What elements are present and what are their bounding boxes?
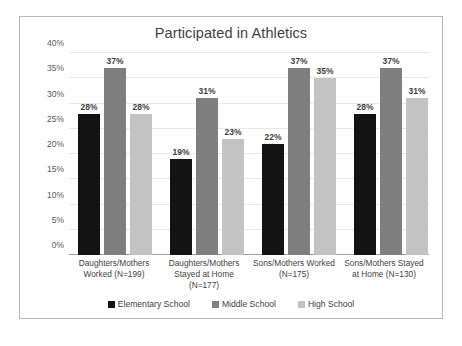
bar-value-label: 35% <box>316 66 333 76</box>
bar-value-label: 37% <box>290 56 307 66</box>
bar-slot: 28% <box>130 53 152 255</box>
bar-value-label: 37% <box>106 56 123 66</box>
bar-groups: 28%37%28%19%31%23%22%37%35%28%37%31% <box>69 53 429 255</box>
bar[interactable]: 23% <box>222 139 244 255</box>
x-axis-category-labels: Daughters/Mothers Worked (N=199)Daughter… <box>69 258 429 291</box>
bar-group: 22%37%35% <box>253 53 345 255</box>
bar[interactable]: 37% <box>104 68 126 255</box>
legend-label: Middle School <box>222 299 276 309</box>
bar-group: 28%37%31% <box>345 53 437 255</box>
bar[interactable]: 31% <box>406 98 428 255</box>
bar[interactable]: 37% <box>380 68 402 255</box>
bar-value-label: 19% <box>172 147 189 157</box>
y-axis-tick-label: 0% <box>52 240 64 250</box>
bar-value-label: 31% <box>408 86 425 96</box>
bar[interactable]: 37% <box>288 68 310 255</box>
legend-swatch-icon <box>108 301 115 308</box>
y-axis-tick-label: 5% <box>52 215 64 225</box>
bar-group: 28%37%28% <box>69 53 161 255</box>
bar-slot: 35% <box>314 53 336 255</box>
bar[interactable]: 28% <box>130 114 152 255</box>
bar[interactable]: 28% <box>78 114 100 255</box>
bar-slot: 37% <box>380 53 402 255</box>
bar-value-label: 31% <box>198 86 215 96</box>
bar[interactable]: 35% <box>314 78 336 255</box>
y-axis-tick-label: 15% <box>47 164 64 174</box>
bar-value-label: 37% <box>382 56 399 66</box>
legend-item[interactable]: Middle School <box>212 299 276 309</box>
category-label: Daughters/Mothers Stayed at Home (N=177) <box>159 258 249 291</box>
bar-value-label: 28% <box>132 102 149 112</box>
legend-swatch-icon <box>298 301 305 308</box>
bar[interactable]: 28% <box>354 114 376 255</box>
bar[interactable]: 22% <box>262 144 284 255</box>
bar[interactable]: 19% <box>170 159 192 255</box>
bar-slot: 31% <box>406 53 428 255</box>
bar-slot: 28% <box>354 53 376 255</box>
chart-title: Participated in Athletics <box>20 25 442 41</box>
category-label: Sons/Mothers Stayed at Home (N=130) <box>339 258 429 291</box>
bar[interactable]: 31% <box>196 98 218 255</box>
y-axis-tick-label: 30% <box>47 89 64 99</box>
bar-slot: 37% <box>288 53 310 255</box>
bar-slot: 19% <box>170 53 192 255</box>
y-axis-tick-label: 25% <box>47 114 64 124</box>
bar-slot: 31% <box>196 53 218 255</box>
y-axis-tick-label: 10% <box>47 190 64 200</box>
category-label: Daughters/Mothers Worked (N=199) <box>69 258 159 291</box>
legend-label: Elementary School <box>118 299 190 309</box>
bar-group: 19%31%23% <box>161 53 253 255</box>
chart-container: Participated in Athletics 40%35%30%25%20… <box>19 16 443 319</box>
legend-swatch-icon <box>212 301 219 308</box>
bar-value-label: 22% <box>264 132 281 142</box>
y-axis-tick-label: 35% <box>47 63 64 73</box>
category-label: Sons/Mothers Worked (N=175) <box>249 258 339 291</box>
bar-value-label: 23% <box>224 127 241 137</box>
bar-value-label: 28% <box>356 102 373 112</box>
legend-item[interactable]: Elementary School <box>108 299 190 309</box>
bar-slot: 37% <box>104 53 126 255</box>
legend-item[interactable]: High School <box>298 299 354 309</box>
bar-value-label: 28% <box>80 102 97 112</box>
y-axis-tick-label: 40% <box>47 38 64 48</box>
plot-area: 40%35%30%25%20%15%10%5%0% 28%37%28%19%31… <box>69 53 429 255</box>
bar-slot: 23% <box>222 53 244 255</box>
chart-legend: Elementary SchoolMiddle SchoolHigh Schoo… <box>20 299 442 309</box>
y-axis-tick-label: 20% <box>47 139 64 149</box>
bar-slot: 28% <box>78 53 100 255</box>
legend-label: High School <box>308 299 354 309</box>
bar-slot: 22% <box>262 53 284 255</box>
